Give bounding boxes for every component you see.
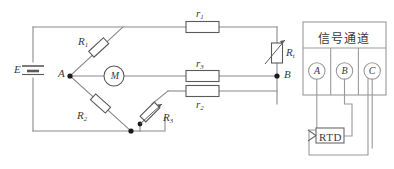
panel-title: 信号通道	[318, 29, 370, 46]
terminal-a-label: A	[311, 66, 323, 76]
rheostat-r3-body	[140, 102, 162, 124]
resistor-r1-label-sub: 1	[85, 41, 88, 48]
resistor-r2-label-sub: 2	[84, 115, 87, 122]
rtd-sensing-element-body	[265, 40, 285, 64]
lead-resistance-r1-body	[186, 22, 219, 33]
rtd-sensing-element-label-sub: t	[293, 52, 295, 59]
resistor-r2-body	[90, 94, 110, 113]
lead-resistance-r1-label: r1	[196, 8, 204, 19]
lead-resistance-r3-label-sub: 3	[200, 63, 203, 70]
rheostat-r3-label-sub: 3	[170, 117, 173, 124]
lead-resistance-r2-label: r2	[196, 99, 204, 110]
lead-resistance-r2-body	[186, 86, 219, 97]
node-b-label: B	[284, 69, 291, 80]
terminal-c-label: C	[366, 66, 378, 76]
node-dot-bottom	[128, 128, 133, 133]
galvanometer-label: M	[109, 71, 121, 81]
battery-label: E	[14, 64, 21, 75]
rtd-sensing-element-label-base: R	[286, 46, 293, 58]
terminal-b-label: B	[339, 66, 351, 76]
resistor-r2-label: R2	[77, 110, 87, 121]
node-a-label: A	[58, 68, 65, 79]
resistor-r2-label-base: R	[77, 109, 84, 121]
node-dot-a	[67, 73, 72, 78]
lead-resistance-r1-label-sub: 1	[200, 13, 203, 20]
rheostat-r3-label: R3	[163, 112, 173, 123]
resistor-r1-label-base: R	[78, 35, 85, 47]
figure-canvas: E A B M R1 R2 R3 r1 r3 r2 Rt 信号通道 A B C …	[0, 0, 394, 169]
bridge-wires	[33, 27, 277, 131]
rheostat-r3-label-base: R	[163, 111, 170, 123]
lead-resistance-r3-body	[186, 71, 219, 82]
lead-resistance-r3-label: r3	[196, 58, 204, 69]
rtd-sensing-element-label: Rt	[286, 47, 295, 58]
node-dot-b	[274, 73, 279, 78]
resistor-r1-label: R1	[78, 36, 88, 47]
lead-resistance-r2-label-sub: 2	[200, 104, 203, 111]
circuit-schematic	[0, 0, 394, 169]
resistor-r1-body	[89, 38, 109, 57]
rtd-box-label: RTD	[319, 131, 342, 143]
battery-symbol	[22, 66, 44, 75]
